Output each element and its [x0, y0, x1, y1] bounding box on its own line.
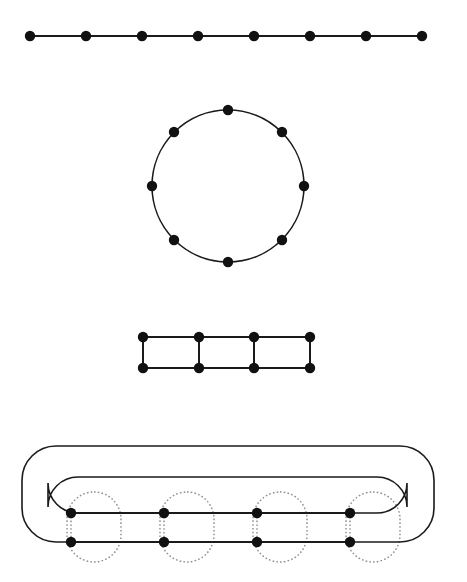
graph-node[interactable]: [305, 31, 315, 41]
graph-node[interactable]: [169, 127, 179, 137]
graph-node[interactable]: [345, 537, 355, 547]
graph-node[interactable]: [361, 31, 371, 41]
graph-node[interactable]: [223, 105, 233, 115]
graph-node[interactable]: [194, 332, 204, 342]
graph-node[interactable]: [159, 508, 169, 518]
graph-node[interactable]: [249, 332, 259, 342]
graph-node[interactable]: [147, 181, 157, 191]
graph-node[interactable]: [249, 31, 259, 41]
graph-node[interactable]: [305, 363, 315, 373]
graph-figure-canvas: [0, 0, 467, 582]
graph-node[interactable]: [137, 31, 147, 41]
graph-node[interactable]: [169, 235, 179, 245]
graph-node[interactable]: [299, 181, 309, 191]
graph-node[interactable]: [252, 537, 262, 547]
graph-node[interactable]: [305, 332, 315, 342]
graph-node[interactable]: [81, 31, 91, 41]
graph-node[interactable]: [277, 127, 287, 137]
graph-node[interactable]: [277, 235, 287, 245]
graph-node[interactable]: [138, 363, 148, 373]
graph-node[interactable]: [138, 332, 148, 342]
graph-node[interactable]: [249, 363, 259, 373]
graph-node[interactable]: [66, 508, 76, 518]
graph-node[interactable]: [66, 537, 76, 547]
graph-node[interactable]: [25, 31, 35, 41]
figure-background: [0, 0, 467, 582]
graph-node[interactable]: [194, 363, 204, 373]
graph-node[interactable]: [193, 31, 203, 41]
graph-node[interactable]: [223, 257, 233, 267]
graph-node[interactable]: [252, 508, 262, 518]
graph-node[interactable]: [345, 508, 355, 518]
graph-node[interactable]: [417, 31, 427, 41]
graph-node[interactable]: [159, 537, 169, 547]
